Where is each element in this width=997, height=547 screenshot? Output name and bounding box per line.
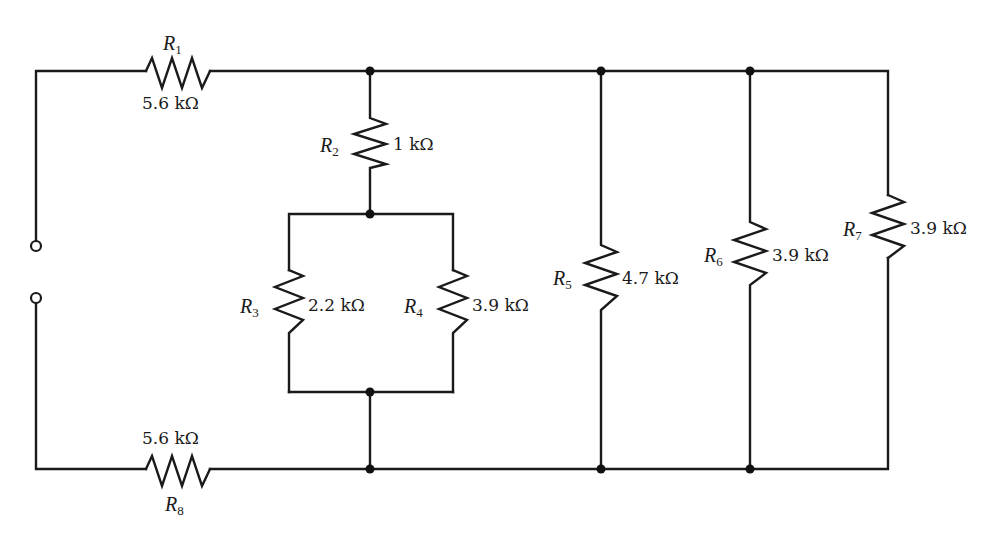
r1-value-label: 5.6 kΩ <box>142 95 199 112</box>
left-top-wire <box>36 71 146 241</box>
r4-symbol: R <box>404 295 416 317</box>
r3-subscript: 3 <box>252 305 259 320</box>
r4-name-label: R4 <box>404 296 423 319</box>
circuit-diagram: R1 5.6 kΩ R2 1 kΩ R3 2.2 kΩ R4 3.9 kΩ R5… <box>0 0 997 547</box>
junction-node <box>597 465 606 474</box>
r6-name-label: R6 <box>704 245 723 268</box>
parallel-top-bar <box>289 214 453 270</box>
r5-symbol: R <box>553 267 565 289</box>
r1-name-label: R1 <box>163 33 182 56</box>
r2-name-label: R2 <box>320 135 339 158</box>
r3-value-label: 2.2 kΩ <box>308 297 365 314</box>
resistor-r3-symbol <box>275 270 303 392</box>
junction-node <box>366 465 375 474</box>
r1-subscript: 1 <box>175 42 182 57</box>
r7-subscript: 7 <box>855 228 862 243</box>
circuit-wiring <box>0 0 997 547</box>
r5-subscript: 5 <box>565 277 572 292</box>
r8-value-label: 5.6 kΩ <box>142 430 199 447</box>
resistor-r1-symbol <box>146 58 210 88</box>
bottom-rail <box>210 258 888 469</box>
r7-symbol: R <box>843 218 855 240</box>
resistor-r4-symbol <box>439 270 467 392</box>
r5-name-label: R5 <box>553 268 572 291</box>
junction-node <box>746 465 755 474</box>
junction-node <box>746 67 755 76</box>
r8-name-label: R8 <box>165 494 184 517</box>
r4-subscript: 4 <box>416 305 423 320</box>
r6-subscript: 6 <box>716 254 723 269</box>
r5-value-label: 4.7 kΩ <box>622 270 679 287</box>
terminal-bottom-icon <box>31 293 41 303</box>
terminal-top-icon <box>31 241 41 251</box>
r8-symbol: R <box>165 493 177 515</box>
r4-value-label: 3.9 kΩ <box>472 297 529 314</box>
r6-value-label: 3.9 kΩ <box>772 247 829 264</box>
top-rail <box>210 71 888 195</box>
junction-node <box>597 67 606 76</box>
resistor-r7-symbol <box>872 195 904 258</box>
r6-symbol: R <box>704 244 716 266</box>
r7-name-label: R7 <box>843 219 862 242</box>
r3-symbol: R <box>240 295 252 317</box>
resistor-r2-symbol <box>354 71 386 214</box>
r3-name-label: R3 <box>240 296 259 319</box>
r8-subscript: 8 <box>177 503 184 518</box>
r2-symbol: R <box>320 134 332 156</box>
junction-node <box>366 388 375 397</box>
resistor-r5-symbol <box>585 71 617 469</box>
resistor-r8-symbol <box>146 456 210 486</box>
r2-subscript: 2 <box>332 144 339 159</box>
resistor-r6-symbol <box>734 71 766 469</box>
junction-node <box>366 210 375 219</box>
r1-symbol: R <box>163 32 175 54</box>
r7-value-label: 3.9 kΩ <box>910 220 967 237</box>
left-bottom-wire <box>36 303 146 469</box>
r2-value-label: 1 kΩ <box>393 136 434 153</box>
junction-node <box>366 67 375 76</box>
